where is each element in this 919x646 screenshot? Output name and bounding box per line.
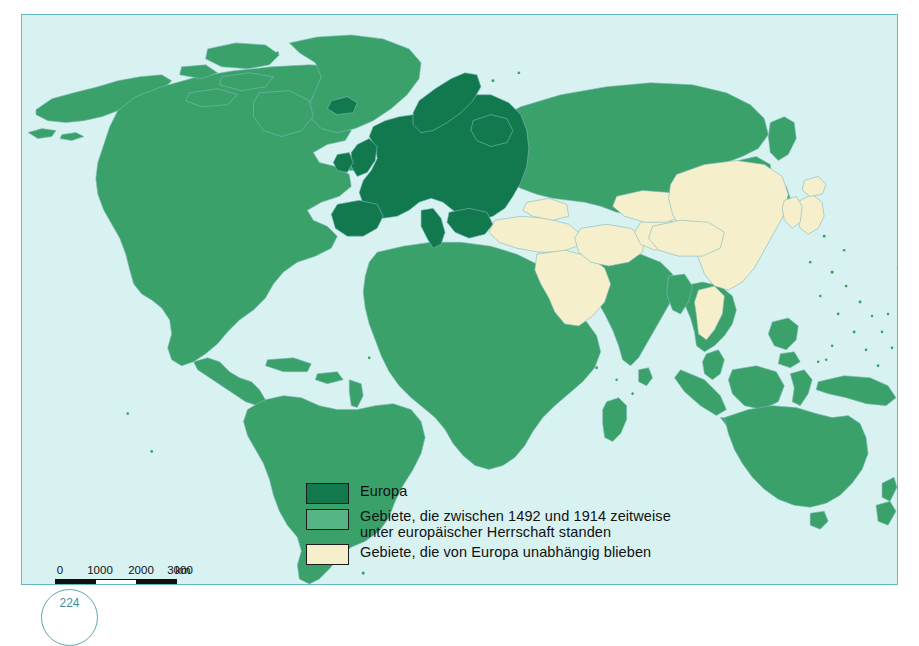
legend-item-independent: Gebiete, die von Europa unabhängig blieb… [306,544,756,565]
legend-swatch-ruled [306,509,349,530]
map-legend: Europa Gebiete, die zwischen 1492 und 19… [306,483,756,569]
scale-tick-0: 0 [57,564,63,576]
legend-swatch-independent [306,544,349,565]
legend-item-europe: Europa [306,483,756,504]
scale-unit-label: km [175,564,190,576]
legend-label-independent: Gebiete, die von Europa unabhängig blieb… [360,544,651,561]
legend-swatch-europe [306,483,349,504]
page-number: 224 [41,589,98,646]
scale-tick-labels: 0 1000 2000 3000 km [55,564,225,577]
legend-label-europe: Europa [360,483,407,500]
scale-segment-1 [56,580,96,584]
scale-bar: 0 1000 2000 3000 km [55,564,225,585]
scale-segment-3 [136,580,176,584]
legend-item-ruled: Gebiete, die zwischen 1492 und 1914 zeit… [306,508,756,540]
legend-label-ruled: Gebiete, die zwischen 1492 und 1914 zeit… [360,508,671,540]
scale-tick-2000: 2000 [128,564,154,576]
region-tibet [649,220,725,256]
scale-bar-track [55,579,177,585]
world-map: Europa Gebiete, die zwischen 1492 und 19… [21,14,898,585]
scale-segment-2 [96,580,136,584]
scale-tick-1000: 1000 [87,564,113,576]
